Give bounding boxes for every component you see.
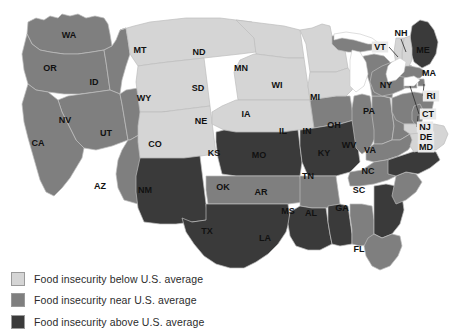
state-label-MO: MO xyxy=(252,150,267,160)
state-label-OK: OK xyxy=(216,182,230,192)
state-label-NV: NV xyxy=(59,115,72,125)
legend-item-above: Food insecurity above U.S. average xyxy=(11,314,204,330)
state-label-MA: MA xyxy=(422,68,436,78)
state-label-WV: WV xyxy=(342,140,357,150)
state-label-MS: MS xyxy=(281,206,295,216)
state-label-KY: KY xyxy=(318,148,331,158)
state-label-ND: ND xyxy=(193,47,206,57)
state-label-WA: WA xyxy=(62,30,77,40)
state-label-RI: RI xyxy=(427,91,436,101)
state-SD[interactable] xyxy=(234,54,310,100)
state-label-IA: IA xyxy=(242,109,252,119)
legend-swatch-above xyxy=(11,315,25,329)
state-label-CO: CO xyxy=(148,139,162,149)
legend-swatch-near xyxy=(11,293,25,307)
state-label-OH: OH xyxy=(327,120,341,130)
state-label-CA: CA xyxy=(32,138,45,148)
state-label-WI: WI xyxy=(272,80,283,90)
state-label-ME: ME xyxy=(416,45,430,55)
state-NE[interactable] xyxy=(212,100,314,132)
state-label-UT: UT xyxy=(100,128,112,138)
legend-label-near: Food insecurity near U.S. average xyxy=(34,294,197,306)
state-label-SD: SD xyxy=(192,83,205,93)
legend-label-below: Food insecurity below U.S. average xyxy=(34,273,203,285)
state-label-OR: OR xyxy=(43,63,57,73)
state-label-MT: MT xyxy=(134,45,147,55)
state-label-VA: VA xyxy=(364,145,376,155)
state-label-SC: SC xyxy=(353,185,366,195)
state-label-IN: IN xyxy=(303,126,312,136)
state-label-FL: FL xyxy=(354,244,365,254)
state-FL[interactable] xyxy=(364,234,402,270)
state-label-MI: MI xyxy=(310,92,320,102)
state-label-WY: WY xyxy=(137,93,152,103)
map-legend: Food insecurity below U.S. average Food … xyxy=(0,268,449,335)
us-choropleth-map: WAORIDNVCAUTAZMTWYCONMNDSDNEKSOKTXMNIAMO… xyxy=(0,0,449,272)
state-label-NJ: NJ xyxy=(419,122,431,132)
state-CO[interactable] xyxy=(138,106,216,158)
state-label-MD: MD xyxy=(419,142,433,152)
state-label-VT: VT xyxy=(374,42,386,52)
state-label-NE: NE xyxy=(195,116,208,126)
state-label-PA: PA xyxy=(363,106,375,116)
state-label-MN: MN xyxy=(234,63,248,73)
state-label-ID: ID xyxy=(90,77,100,87)
state-label-CT: CT xyxy=(422,109,434,119)
state-label-GA: GA xyxy=(335,203,349,213)
state-label-AL: AL xyxy=(305,208,317,218)
state-label-AZ: AZ xyxy=(94,181,106,191)
state-label-AR: AR xyxy=(255,187,268,197)
state-MT[interactable] xyxy=(120,18,256,66)
legend-label-above: Food insecurity above U.S. average xyxy=(34,316,204,328)
state-label-TX: TX xyxy=(201,226,213,236)
state-label-TN: TN xyxy=(302,171,314,181)
state-label-KS: KS xyxy=(208,148,221,158)
state-label-NY: NY xyxy=(380,80,393,90)
legend-item-near: Food insecurity near U.S. average xyxy=(11,292,197,308)
state-label-NH: NH xyxy=(395,28,408,38)
state-label-LA: LA xyxy=(259,233,271,243)
map-svg: WAORIDNVCAUTAZMTWYCONMNDSDNEKSOKTXMNIAMO… xyxy=(0,0,449,272)
legend-item-below: Food insecurity below U.S. average xyxy=(11,271,203,287)
state-label-NC: NC xyxy=(362,166,375,176)
legend-swatch-below xyxy=(11,272,25,286)
state-label-NM: NM xyxy=(138,185,152,195)
state-SC[interactable] xyxy=(392,172,422,204)
state-label-DE: DE xyxy=(420,132,433,142)
state-label-IL: IL xyxy=(279,126,288,136)
state-IN[interactable] xyxy=(372,96,394,144)
